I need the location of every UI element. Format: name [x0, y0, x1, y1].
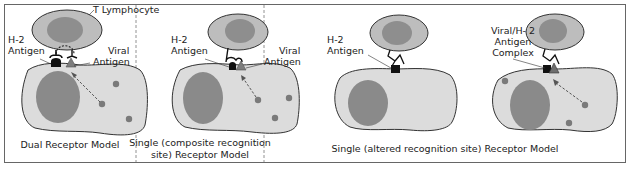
h2-antigen-shape: [391, 65, 400, 73]
t-lymphocyte-nucleus: [225, 19, 255, 43]
label-complex-line2: Antigen: [495, 36, 532, 47]
panel-dual-receptor: T Lymphocyte H-2 Antigen Viral Antigen D…: [8, 4, 160, 150]
h2-antigen-shape: [229, 62, 236, 70]
leader-h2: [40, 59, 51, 64]
label-viral-line2: Antigen: [264, 56, 301, 67]
t-cell-recognition-models-diagram: T Lymphocyte H-2 Antigen Viral Antigen D…: [0, 0, 632, 175]
t-lymphocyte-nucleus: [382, 21, 412, 45]
h2-antigen-shape: [51, 58, 61, 67]
label-viral-line2: Antigen: [93, 56, 130, 67]
viral-receptor: [67, 50, 77, 58]
caption-composite-line2: site) Receptor Model: [151, 149, 249, 160]
viral-particle: [126, 116, 132, 122]
t-cell-receptor: [388, 50, 404, 66]
viral-particle: [272, 115, 278, 121]
target-cell-nucleus: [36, 71, 80, 123]
label-t-lymphocyte: T Lymphocyte: [92, 4, 160, 15]
label-h2-line2: Antigen: [8, 45, 45, 56]
h2-receptor: [50, 50, 62, 58]
label-h2-line2: Antigen: [171, 45, 208, 56]
viral-particle: [255, 97, 261, 103]
viral-particle: [566, 120, 572, 126]
caption-composite-line1: Single (composite recognition: [129, 137, 271, 148]
caption-altered: Single (altered recognition site) Recept…: [331, 143, 558, 154]
viral-particle: [113, 81, 119, 87]
label-viral-line1: Viral: [108, 45, 129, 56]
viral-particle: [502, 78, 508, 84]
t-lymphocyte-nucleus: [539, 19, 567, 43]
label-h2-line1: H-2: [8, 34, 25, 45]
t-lymphocyte-nucleus: [47, 17, 83, 43]
label-complex-line1: Viral/H- 2: [491, 25, 535, 36]
viral-particle: [286, 95, 292, 101]
leader-h2: [368, 55, 391, 68]
caption-dual: Dual Receptor Model: [21, 139, 120, 150]
label-h2-line1: H-2: [171, 34, 188, 45]
panel-composite-recognition: H-2 Antigen Viral Antigen Single (compos…: [129, 14, 301, 160]
label-viral-line1: Viral: [279, 45, 300, 56]
viral-particle: [582, 102, 588, 108]
target-cell-nucleus: [183, 72, 223, 124]
label-left-h2-line1: H-2: [327, 34, 344, 45]
target-cell-nucleus: [510, 80, 550, 130]
t-cell-receptor: [543, 49, 559, 64]
target-cell-nucleus: [348, 80, 388, 126]
panel-altered-recognition: H-2 Antigen Viral/H- 2 Antigen Complex S…: [327, 14, 617, 154]
leader-complex: [513, 59, 545, 68]
label-complex-line3: Complex: [492, 47, 534, 58]
label-left-h2-line2: Antigen: [327, 45, 364, 56]
